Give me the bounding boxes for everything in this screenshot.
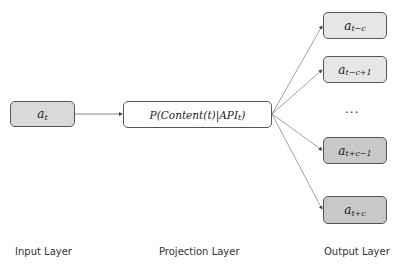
output-sub: t+c−1	[345, 149, 371, 158]
projection-close: )	[241, 109, 245, 121]
projection-node: P(Content(t)|APIt)	[123, 101, 272, 128]
output-node-1: at−c	[323, 12, 387, 39]
ellipsis: ···	[345, 106, 359, 120]
output-layer-label: Output Layer	[324, 246, 390, 257]
output-node-3: at+c−1	[323, 137, 387, 164]
input-layer-label: Input Layer	[15, 246, 72, 257]
input-node: at	[10, 101, 75, 127]
output-var: a	[344, 19, 351, 33]
input-var: a	[37, 107, 44, 121]
connector-arrows	[0, 0, 396, 271]
projection-sub: t	[238, 113, 241, 122]
projection-layer-label: Projection Layer	[159, 246, 240, 257]
output-node-2: at−c+1	[323, 56, 387, 83]
output-var: a	[338, 63, 345, 77]
input-sub: t	[44, 113, 47, 122]
output-sub: t−c+1	[345, 68, 371, 77]
projection-text: P(Content(t)|API	[150, 109, 238, 121]
output-node-4: at+c	[323, 196, 387, 224]
output-sub: t+c	[351, 209, 365, 218]
output-sub: t−c	[351, 24, 365, 33]
output-var: a	[338, 144, 345, 158]
output-var: a	[344, 203, 351, 217]
